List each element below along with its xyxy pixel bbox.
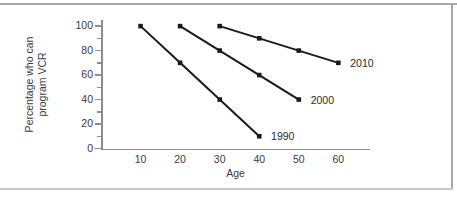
page-frame-right-rule: [451, 3, 453, 190]
series-1990: [138, 24, 261, 139]
data-point-marker: [257, 73, 262, 78]
data-point-marker: [138, 24, 143, 29]
data-point-marker: [178, 61, 183, 66]
series-label-2010: 2010: [350, 57, 373, 69]
series-label-1990: 1990: [271, 130, 294, 142]
series-line: [180, 26, 299, 99]
series-2000: [178, 24, 301, 102]
data-point-marker: [217, 97, 222, 102]
series-label-2000: 2000: [311, 94, 334, 106]
chart-figure: 020406080100 102030405060 Age Percentage…: [0, 0, 457, 203]
data-point-marker: [296, 48, 301, 53]
data-point-marker: [217, 24, 222, 29]
data-point-marker: [257, 134, 262, 139]
series-2010: [217, 24, 340, 65]
series-line: [220, 26, 339, 63]
page-frame-top-rule: [0, 3, 457, 5]
series-layer: [0, 6, 451, 188]
plot-area: 020406080100 102030405060 Age Percentage…: [0, 6, 451, 188]
data-point-marker: [336, 61, 341, 66]
page-frame-bottom-rule: [0, 188, 453, 190]
data-point-marker: [217, 48, 222, 53]
series-line: [141, 26, 260, 136]
data-point-marker: [178, 24, 183, 29]
data-point-marker: [257, 36, 262, 41]
data-point-marker: [296, 97, 301, 102]
